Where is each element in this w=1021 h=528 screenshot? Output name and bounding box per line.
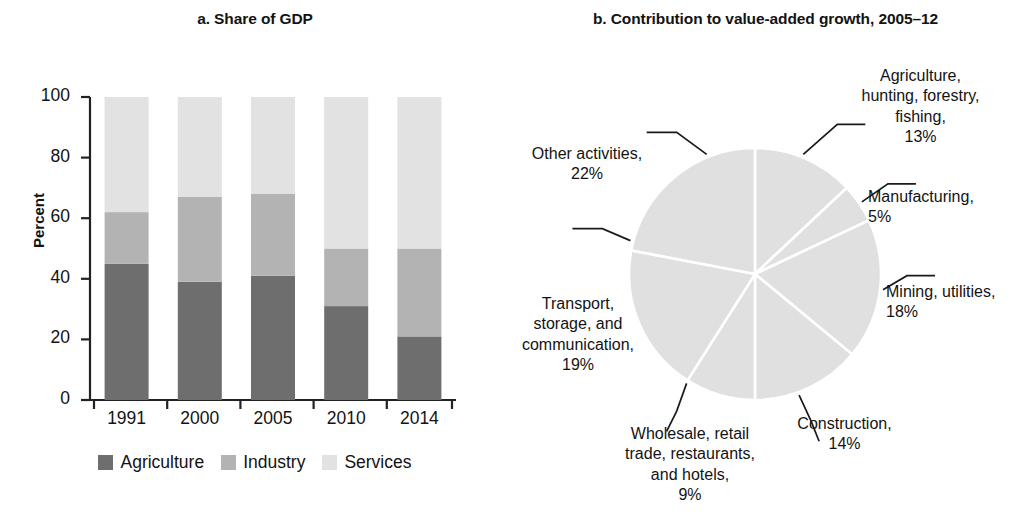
legend-label: Agriculture xyxy=(120,452,204,473)
bar-segments xyxy=(105,97,442,400)
bar-chart-plot xyxy=(0,0,510,528)
leader-line-5 xyxy=(572,229,630,241)
pie-label-line: Transport, xyxy=(488,294,668,314)
pie-label-manufacturing: Manufacturing,5% xyxy=(868,187,1018,228)
pie-label-line: 19% xyxy=(488,355,668,375)
pie-label-line: storage, and xyxy=(488,314,668,334)
pie-label-line: fishing, xyxy=(833,107,1008,127)
pie-label-line: 18% xyxy=(886,302,1021,322)
pie-label-line: Manufacturing, xyxy=(868,187,1018,207)
pie-label-line: 9% xyxy=(595,485,785,505)
pie-label-line: communication, xyxy=(488,335,668,355)
legend-swatch-icon xyxy=(98,455,113,470)
pie-label-line: hunting, forestry, xyxy=(833,86,1008,106)
pie-label-line: Construction, xyxy=(772,414,917,434)
pie-chart: Agriculture,hunting, forestry,fishing,13… xyxy=(510,0,1021,528)
y-tick-label: 100 xyxy=(28,85,70,106)
legend-label: Services xyxy=(344,452,411,473)
legend-swatch-icon xyxy=(322,455,337,470)
pie-label-line: Agriculture, xyxy=(833,66,1008,86)
pie-label-line: 5% xyxy=(868,207,1018,227)
panel-share-of-gdp: a. Share of GDP Percent 020406080100 199… xyxy=(0,0,510,528)
x-tick-label: 1991 xyxy=(90,408,164,429)
panel-contribution-to-growth: b. Contribution to value-added growth, 2… xyxy=(510,0,1021,528)
pie-label-mining: Mining, utilities,18% xyxy=(886,282,1021,323)
pie-label-line: 14% xyxy=(772,434,917,454)
chart-legend: AgricultureIndustryServices xyxy=(0,452,510,473)
y-tick-label: 60 xyxy=(28,206,70,227)
pie-label-line: 22% xyxy=(512,164,662,184)
legend-item-agriculture[interactable]: Agriculture xyxy=(98,452,204,473)
y-tick-label: 20 xyxy=(28,327,70,348)
y-axis-ticks xyxy=(81,97,90,400)
pie-label-other: Other activities,22% xyxy=(512,144,662,185)
pie-label-line: Other activities, xyxy=(512,144,662,164)
y-tick-label: 80 xyxy=(28,146,70,167)
pie-label-wholesale: Wholesale, retailtrade, restaurants,and … xyxy=(595,424,785,506)
legend-item-services[interactable]: Services xyxy=(322,452,411,473)
pie-label-construction: Construction,14% xyxy=(772,414,917,455)
legend-swatch-icon xyxy=(221,455,236,470)
pie-label-line: 13% xyxy=(833,127,1008,147)
stacked-bar-chart: Percent 020406080100 1991200020052010201… xyxy=(0,0,510,528)
legend-item-industry[interactable]: Industry xyxy=(221,452,305,473)
y-tick-label: 0 xyxy=(28,388,70,409)
pie-label-line: trade, restaurants, xyxy=(595,444,785,464)
x-tick-label: 2005 xyxy=(236,408,310,429)
pie-label-line: Mining, utilities, xyxy=(886,282,1021,302)
pie-label-agriculture: Agriculture,hunting, forestry,fishing,13… xyxy=(833,66,1008,148)
y-tick-label: 40 xyxy=(28,267,70,288)
legend-label: Industry xyxy=(243,452,305,473)
pie-label-transport: Transport,storage, andcommunication,19% xyxy=(488,294,668,376)
x-tick-label: 2000 xyxy=(163,408,237,429)
y-axis-tick-labels: 020406080100 xyxy=(24,0,70,528)
x-tick-label: 2014 xyxy=(382,408,456,429)
x-tick-label: 2010 xyxy=(309,408,383,429)
pie-label-line: and hotels, xyxy=(595,465,785,485)
pie-label-line: Wholesale, retail xyxy=(595,424,785,444)
